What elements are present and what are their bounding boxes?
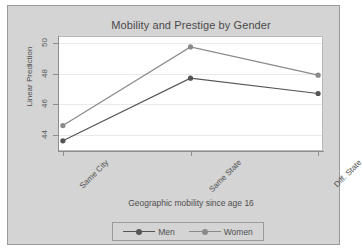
x-tick-label: Same State (207, 158, 243, 194)
graph-region: Mobility and Prestige by Gender 44464850… (7, 5, 340, 245)
y-axis-line (58, 36, 59, 152)
data-point-marker (188, 44, 193, 49)
data-point-marker (60, 138, 65, 143)
y-tick (53, 43, 58, 44)
line-marker-icon (189, 228, 221, 236)
data-point-marker (316, 91, 321, 96)
data-point-marker (316, 73, 321, 78)
chart-title: Mobility and Prestige by Gender (58, 19, 324, 31)
legend-item-women: Women (189, 227, 253, 237)
y-tick-label: 46 (40, 96, 49, 112)
y-tick-label: 48 (40, 65, 49, 81)
y-tick-label: 50 (40, 35, 49, 51)
x-tick-label: Same City (78, 158, 110, 190)
series-line (63, 78, 318, 141)
y-tick (53, 74, 58, 75)
y-tick (53, 135, 58, 136)
x-tick (63, 152, 64, 156)
y-tick (53, 104, 58, 105)
x-tick (191, 152, 192, 156)
y-tick-label: 44 (40, 126, 49, 142)
y-axis-title: Linear Prediction (25, 32, 34, 122)
plot-area (58, 36, 323, 151)
x-tick-label: Diff. State (332, 158, 363, 189)
series-line (63, 47, 318, 126)
data-point-marker (60, 123, 65, 128)
legend-label: Women (224, 227, 253, 237)
legend-item-men: Men (123, 227, 175, 237)
x-axis-title: Geographic mobility since age 16 (58, 198, 324, 208)
series-lines (59, 37, 322, 150)
legend-label: Men (158, 227, 175, 237)
data-point-marker (188, 76, 193, 81)
legend: Men Women (112, 222, 264, 241)
line-marker-icon (123, 228, 155, 236)
x-tick (318, 152, 319, 156)
